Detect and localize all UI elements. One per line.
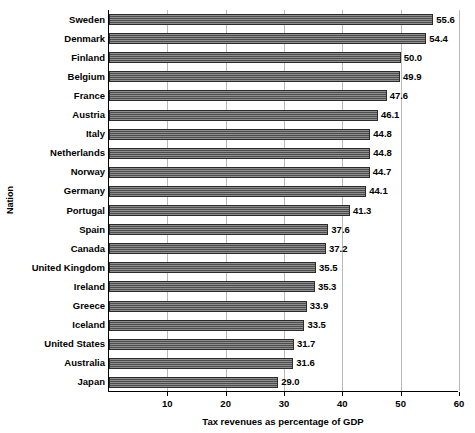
bar: [109, 205, 350, 216]
gridline: [226, 10, 227, 391]
category-labels: SwedenDenmarkFinlandBelgiumFranceAustria…: [16, 10, 108, 392]
category-label: Belgium: [68, 72, 105, 82]
category-label: Ireland: [74, 282, 105, 292]
bar-value-label: 35.3: [318, 282, 337, 292]
bar: [109, 320, 304, 331]
gridline: [284, 10, 285, 391]
x-axis-tick: [284, 392, 285, 396]
x-axis-tick-label: 60: [454, 398, 465, 409]
bar: [109, 90, 387, 101]
gridline: [459, 10, 460, 391]
x-axis-tick-label: 50: [395, 398, 406, 409]
category-label: France: [74, 91, 105, 101]
category-label: Canada: [71, 244, 105, 254]
category-label: Germany: [64, 186, 105, 196]
bar: [109, 281, 315, 292]
bar-value-label: 54.4: [429, 34, 448, 44]
bar-value-label: 41.3: [353, 206, 372, 216]
bar-value-label: 33.9: [310, 301, 329, 311]
category-label: United Kingdom: [32, 263, 105, 273]
bar: [109, 110, 378, 121]
bar-value-label: 29.0: [281, 377, 300, 387]
bar: [109, 262, 316, 273]
bar: [109, 33, 426, 44]
bar-value-label: 46.1: [381, 110, 400, 120]
plot-area: 10203040506055.654.450.049.947.646.144.8…: [108, 10, 458, 392]
category-label: United States: [44, 339, 105, 349]
bar-value-label: 35.5: [319, 263, 338, 273]
category-label: Iceland: [72, 320, 105, 330]
bar: [109, 71, 400, 82]
bar-chart: Nation SwedenDenmarkFinlandBelgiumFrance…: [0, 0, 475, 433]
category-label: Norway: [71, 167, 105, 177]
bar-value-label: 31.6: [296, 358, 315, 368]
bar: [109, 148, 370, 159]
bar-value-label: 47.6: [390, 91, 409, 101]
bar: [109, 186, 366, 197]
x-axis-tick-label: 10: [162, 398, 173, 409]
y-axis-title-label: Nation: [5, 186, 15, 214]
x-axis-tick-label: 30: [279, 398, 290, 409]
bar-value-label: 44.8: [373, 148, 392, 158]
x-axis-tick: [401, 392, 402, 396]
bar: [109, 243, 326, 254]
category-label: Japan: [78, 377, 105, 387]
bar-value-label: 44.1: [369, 186, 388, 196]
bar-value-label: 50.0: [404, 53, 423, 63]
category-label: Sweden: [69, 15, 105, 25]
bar: [109, 339, 294, 350]
bar: [109, 377, 278, 388]
bar-value-label: 44.7: [373, 167, 392, 177]
bar: [109, 14, 433, 25]
x-axis-tick: [342, 392, 343, 396]
bar-value-label: 44.8: [373, 129, 392, 139]
category-label: Spain: [79, 225, 105, 235]
bar-value-label: 37.2: [329, 244, 348, 254]
gridline: [342, 10, 343, 391]
bar-value-label: 49.9: [403, 72, 422, 82]
x-axis-tick-label: 40: [337, 398, 348, 409]
category-label: Finland: [71, 53, 105, 63]
bar-value-label: 37.6: [331, 225, 350, 235]
category-label: Netherlands: [50, 148, 105, 158]
bar-value-label: 55.6: [436, 15, 455, 25]
bar-value-label: 31.7: [297, 339, 316, 349]
category-label: Greece: [73, 301, 105, 311]
gridline: [167, 10, 168, 391]
bar: [109, 358, 293, 369]
x-axis-tick-label: 20: [220, 398, 231, 409]
category-label: Austria: [72, 110, 105, 120]
category-label: Denmark: [64, 34, 105, 44]
x-axis-title: Tax revenues as percentage of GDP: [108, 416, 458, 427]
bar: [109, 129, 370, 140]
category-label: Portugal: [66, 206, 105, 216]
x-axis-tick: [167, 392, 168, 396]
x-axis-tick: [226, 392, 227, 396]
x-axis-tick: [459, 392, 460, 396]
category-label: Italy: [86, 129, 105, 139]
bar: [109, 301, 307, 312]
gridline: [401, 10, 402, 391]
bar: [109, 224, 328, 235]
bar-value-label: 33.5: [307, 320, 326, 330]
category-label: Australia: [64, 358, 105, 368]
bar: [109, 52, 401, 63]
bar: [109, 167, 370, 178]
